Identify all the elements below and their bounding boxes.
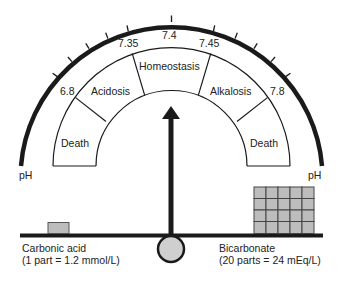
ph-label-left: pH <box>19 170 32 181</box>
carbonic-acid-block <box>48 223 69 234</box>
zone-label-acidosis: Acidosis <box>91 86 130 97</box>
carbonic-acid-detail: (1 part = 1.2 mmol/L) <box>22 254 120 266</box>
zone-label-death-left: Death <box>61 138 89 149</box>
zone-label-homeostasis: Homeostasis <box>139 61 200 72</box>
ph-label-right: pH <box>308 170 321 181</box>
scale-label-7-4: 7.4 <box>162 30 177 41</box>
bicarbonate-blocks <box>254 187 314 234</box>
carbonic-acid-name: Carbonic acid <box>22 242 120 254</box>
scale-label-6-8: 6.8 <box>60 86 75 97</box>
scale-label-7-45: 7.45 <box>199 38 219 49</box>
fulcrum <box>158 236 184 262</box>
carbonic-acid-caption: Carbonic acid (1 part = 1.2 mmol/L) <box>22 242 120 266</box>
scale-label-7-35: 7.35 <box>118 38 138 49</box>
bicarbonate-detail: (20 parts = 24 mEq/L) <box>219 254 321 266</box>
ph-balance-diagram: 6.8 7.35 7.4 7.45 7.8 Death Acidosis Hom… <box>0 0 341 281</box>
bicarbonate-name: Bicarbonate <box>219 242 321 254</box>
zone-label-alkalosis: Alkalosis <box>210 86 251 97</box>
pointer-arrowhead <box>162 106 180 119</box>
scale-label-7-8: 7.8 <box>270 86 285 97</box>
bicarbonate-caption: Bicarbonate (20 parts = 24 mEq/L) <box>219 242 321 266</box>
gauge-graphic <box>0 0 341 281</box>
zone-label-death-right: Death <box>250 138 278 149</box>
